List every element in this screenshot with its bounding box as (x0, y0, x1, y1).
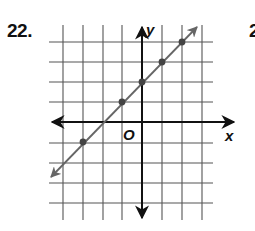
point (119, 99, 126, 106)
coordinate-graph: y x O (0, 0, 255, 231)
origin-label: O (123, 126, 135, 143)
point (139, 79, 146, 86)
point (179, 39, 186, 46)
point (159, 59, 166, 66)
point (80, 139, 87, 146)
x-axis-label: x (224, 127, 234, 144)
y-axis-label: y (145, 21, 155, 38)
